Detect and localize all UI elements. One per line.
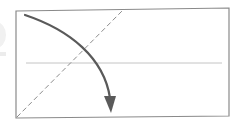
fold-diagram — [0, 0, 237, 129]
